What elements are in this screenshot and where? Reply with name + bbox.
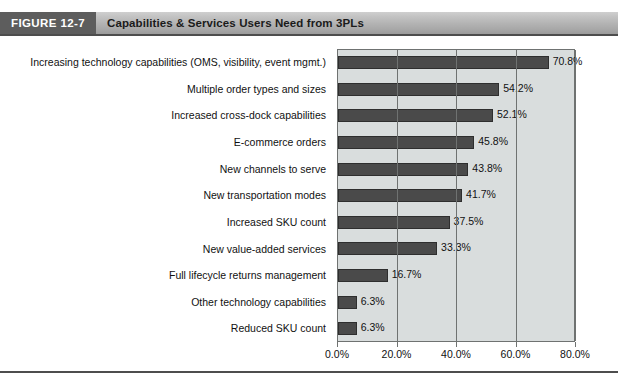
category-label: Other technology capabilities — [191, 289, 326, 315]
x-axis-tick-label: 60.0% — [501, 348, 531, 360]
bar-value-label: 6.3% — [361, 294, 385, 309]
category-label: Increasing technology capabilities (OMS,… — [30, 49, 326, 75]
category-label: Reduced SKU count — [231, 315, 326, 341]
category-label: Increased cross-dock capabilities — [171, 102, 326, 128]
category-label: New value-added services — [203, 235, 326, 261]
x-axis-tick-label: 0.0% — [325, 348, 349, 360]
figure-header-banner: FIGURE 12-7 Capabilities & Services User… — [0, 12, 618, 34]
bar-value-label: 70.8% — [553, 54, 583, 69]
bar-value-label: 54.2% — [503, 81, 533, 96]
bar[interactable] — [338, 83, 499, 96]
bar-value-label: 45.8% — [478, 134, 508, 149]
x-axis-tick — [337, 342, 338, 347]
bar[interactable] — [338, 109, 493, 122]
bar[interactable] — [338, 296, 357, 309]
bar-value-label: 43.8% — [472, 161, 502, 176]
bar-value-label: 41.7% — [466, 187, 496, 202]
bar[interactable] — [338, 136, 474, 149]
x-axis-tick — [575, 342, 576, 347]
category-label: New channels to serve — [220, 156, 326, 182]
category-label: Multiple order types and sizes — [187, 76, 326, 102]
x-axis-tick-label: 80.0% — [560, 348, 590, 360]
bar-value-label: 52.1% — [497, 107, 527, 122]
bar[interactable] — [338, 242, 437, 255]
category-label: Full lifecycle returns management — [169, 262, 326, 288]
figure-title: Capabilities & Services Users Need from … — [96, 12, 618, 34]
category-axis-labels: Increasing technology capabilities (OMS,… — [14, 49, 332, 342]
bar[interactable] — [338, 189, 462, 202]
figure-container: FIGURE 12-7 Capabilities & Services User… — [0, 0, 618, 379]
x-axis-tick — [456, 342, 457, 347]
footer-divider-rule — [0, 371, 618, 373]
category-label: New transportation modes — [203, 182, 326, 208]
chart-canvas: Increasing technology capabilities (OMS,… — [0, 36, 618, 373]
figure-number-tag: FIGURE 12-7 — [0, 12, 96, 34]
gridline-200 — [397, 50, 398, 341]
x-axis-tick — [516, 342, 517, 347]
bar-value-label: 37.5% — [454, 214, 484, 229]
bar[interactable] — [338, 163, 468, 176]
gridline-800 — [575, 50, 576, 341]
plot-area: 70.8%54.2%52.1%45.8%43.8%41.7%37.5%33.3%… — [337, 49, 575, 342]
bar[interactable] — [338, 269, 388, 282]
bar-value-label: 6.3% — [361, 320, 385, 335]
x-axis-tick-label: 20.0% — [382, 348, 412, 360]
gridline-400 — [456, 50, 457, 341]
x-axis-tick — [397, 342, 398, 347]
gridline-600 — [516, 50, 517, 341]
bar[interactable] — [338, 322, 357, 335]
x-axis-tick-label: 40.0% — [441, 348, 471, 360]
bar[interactable] — [338, 216, 450, 229]
bar[interactable] — [338, 56, 549, 69]
category-label: E-commerce orders — [234, 129, 326, 155]
category-label: Increased SKU count — [227, 209, 326, 235]
